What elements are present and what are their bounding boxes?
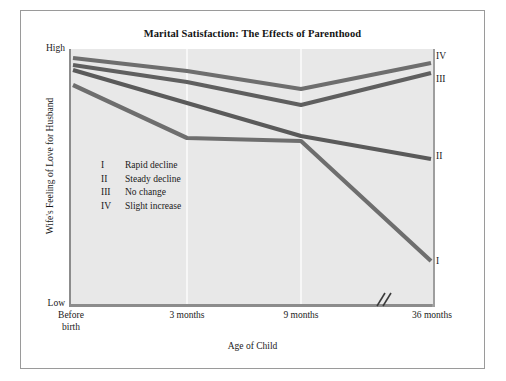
- figure-frame: Marital Satisfaction: The Effects of Par…: [20, 10, 485, 369]
- legend-symbol: I: [101, 159, 125, 173]
- legend-item: II Steady decline: [101, 173, 181, 187]
- legend: I Rapid decline II Steady decline III No…: [101, 159, 181, 213]
- legend-symbol: II: [101, 173, 125, 187]
- axis-break-icon: [373, 292, 395, 308]
- x-axis-title: Age of Child: [21, 341, 484, 351]
- legend-item: III No change: [101, 186, 181, 200]
- series-label-IV: IV: [436, 51, 446, 61]
- legend-item: IV Slight increase: [101, 200, 181, 214]
- x-tick-label-line1: Before: [43, 310, 99, 322]
- legend-label: Steady decline: [125, 173, 181, 187]
- series-label-II: II: [436, 151, 442, 161]
- y-axis-title: Wife's Feeling of Love for Husband: [45, 76, 55, 256]
- legend-label: Slight increase: [125, 200, 181, 214]
- legend-item: I Rapid decline: [101, 159, 181, 173]
- x-tick-label-36-months: 36 months: [399, 310, 465, 322]
- series-label-I: I: [436, 256, 439, 266]
- legend-label: No change: [125, 186, 166, 200]
- y-tick-label-high: High: [19, 43, 65, 53]
- legend-label: Rapid decline: [125, 159, 178, 173]
- y-tick-label-low: Low: [19, 298, 65, 308]
- x-tick-label-9-months: 9 months: [271, 310, 331, 322]
- x-tick-label-before-birth: Before birth: [43, 310, 99, 333]
- x-tick-label-3-months: 3 months: [157, 310, 217, 322]
- x-tick-label-line2: birth: [43, 322, 99, 334]
- series-label-III: III: [436, 74, 446, 84]
- legend-symbol: IV: [101, 200, 125, 214]
- chart-title: Marital Satisfaction: The Effects of Par…: [21, 28, 484, 39]
- legend-symbol: III: [101, 186, 125, 200]
